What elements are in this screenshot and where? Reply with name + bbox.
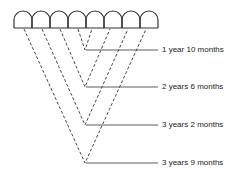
tooth-arches xyxy=(14,11,158,28)
label-2y6m: 2 years 6 months xyxy=(162,82,223,91)
dashed-convergence-lines xyxy=(24,29,146,163)
leader-lines xyxy=(86,50,158,163)
label-3y2m: 3 years 2 months xyxy=(162,120,223,129)
label-3y9m: 3 years 9 months xyxy=(162,158,223,167)
label-1y10m: 1 year 10 months xyxy=(162,45,224,54)
